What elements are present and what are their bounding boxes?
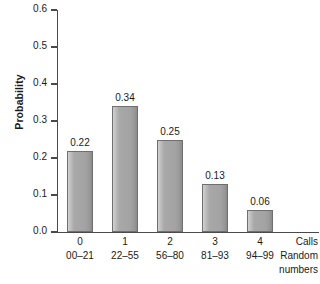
bar-3 [202, 184, 228, 232]
bar-0 [67, 151, 93, 232]
bar-value-label-1: 0.34 [97, 92, 153, 103]
y-tick-0.2 [51, 157, 57, 158]
y-tick-0.0 [51, 231, 57, 232]
y-tick-label-0.6: 0.6 [2, 3, 47, 14]
x-axis-line [57, 232, 319, 233]
y-tick-label-0.2: 0.2 [2, 151, 47, 162]
bar-4 [247, 210, 273, 232]
row-caption-calls: Calls [248, 236, 318, 247]
bar-1 [112, 106, 138, 232]
y-tick-label-0.0: 0.0 [2, 225, 47, 236]
y-tick-0.3 [51, 120, 57, 121]
y-tick-0.1 [51, 194, 57, 195]
bar-value-label-0: 0.22 [52, 137, 108, 148]
bar-value-label-2: 0.25 [142, 126, 198, 137]
row-caption-numbers: numbers [248, 264, 318, 275]
bar-chart-figure: Probability 0.00.10.20.30.40.50.6 0.220.… [0, 0, 320, 284]
row-caption-random: Random [248, 250, 318, 261]
y-tick-label-0.5: 0.5 [2, 40, 47, 51]
y-tick-0.5 [51, 46, 57, 47]
y-tick-0.4 [51, 83, 57, 84]
y-tick-label-0.4: 0.4 [2, 77, 47, 88]
bar-value-label-4: 0.06 [232, 196, 288, 207]
y-tick-label-0.3: 0.3 [2, 114, 47, 125]
y-axis-line [57, 10, 58, 233]
bar-2 [157, 140, 183, 233]
y-tick-0.6 [51, 9, 57, 10]
y-axis-title: Probability [13, 57, 25, 147]
bar-value-label-3: 0.13 [187, 170, 243, 181]
y-tick-label-0.1: 0.1 [2, 188, 47, 199]
